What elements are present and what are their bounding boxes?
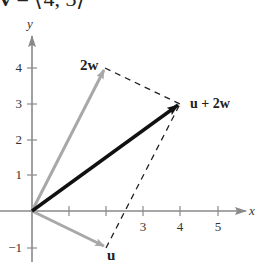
x-tick-label-5: 5 [215,219,222,234]
vector-diagram: x y 3 4 5 4 3 2 1 −1 2w u + 2w u [0,0,262,264]
vector-2w-arrow [32,70,104,211]
dashed-line-2w-to-sum [105,68,180,104]
y-tick-label-4: 4 [16,60,23,75]
x-tick-label-3: 3 [140,219,147,234]
y-tick-label-3: 3 [16,96,23,111]
y-tick-label-neg1: −1 [8,240,22,255]
x-tick-label-4: 4 [177,219,184,234]
vector-u-plus-2w-arrow [32,105,178,211]
vector-u-label: u [107,247,115,263]
x-axis-label: x [248,203,255,218]
vector-2w-label: 2w [80,57,99,73]
vector-u-arrow [32,211,104,246]
y-axis-label: y [25,16,33,31]
y-tick-label-1: 1 [16,167,23,182]
vector-u-plus-2w-label: u + 2w [190,96,231,111]
y-tick-label-2: 2 [16,132,23,147]
